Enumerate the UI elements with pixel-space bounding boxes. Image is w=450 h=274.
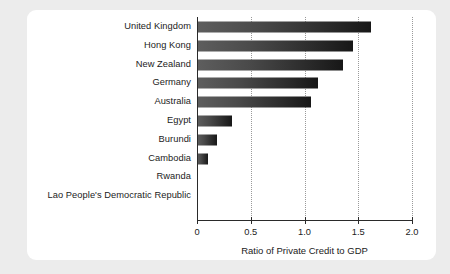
bar	[197, 97, 311, 108]
category-label: United Kingdom	[124, 22, 191, 31]
x-axis-title: Ratio of Private Credit to GDP	[241, 246, 368, 256]
category-label: Lao People's Democratic Republic	[48, 192, 191, 201]
bar	[197, 78, 318, 89]
category-label: Germany	[152, 79, 191, 88]
y-axis-spine	[197, 17, 198, 221]
x-axis-tick-label: 0	[194, 228, 199, 237]
category-label: Egypt	[167, 116, 191, 125]
x-axis-tick	[412, 217, 413, 224]
x-axis-tick-label: 0.5	[244, 228, 257, 237]
x-axis-tick	[358, 217, 359, 224]
x-axis-tick-label: 1.5	[352, 228, 365, 237]
x-axis-tick-label: 1.0	[298, 228, 311, 237]
category-label: Hong Kong	[144, 41, 191, 50]
category-label: Cambodia	[148, 154, 191, 163]
x-axis-tick	[305, 217, 306, 224]
bar	[197, 153, 208, 164]
x-axis-tick	[197, 217, 198, 224]
bar-chart-plot-area: United KingdomHong KongNew ZealandGerman…	[27, 10, 436, 260]
category-label: Rwanda	[157, 173, 191, 182]
x-axis-tick-label: 2.0	[406, 228, 419, 237]
bar	[197, 22, 371, 33]
gridline	[358, 17, 359, 221]
bar	[197, 40, 353, 51]
category-label: Australia	[154, 98, 191, 107]
chart-panel: United KingdomHong KongNew ZealandGerman…	[27, 10, 436, 260]
gridline	[412, 17, 413, 221]
bar	[197, 116, 232, 127]
category-label: New Zealand	[136, 60, 191, 69]
category-label: Burundi	[159, 135, 191, 144]
figure-root: United KingdomHong KongNew ZealandGerman…	[0, 0, 450, 274]
x-axis-tick	[251, 217, 252, 224]
bar	[197, 59, 343, 70]
bar	[197, 134, 217, 145]
